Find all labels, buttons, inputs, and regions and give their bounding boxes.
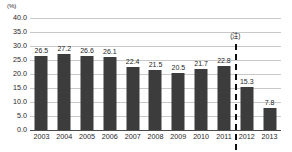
bars-layer: 26.527.226.626.122.421.520.521.722.815.3… xyxy=(30,18,281,130)
bar-value-label: 26.1 xyxy=(103,48,117,55)
bar-value-label: 15.3 xyxy=(240,78,254,85)
y-tick-label: 10.0 xyxy=(13,98,27,105)
bar-group: 21.5 xyxy=(144,18,167,130)
note-label: (注) xyxy=(230,33,240,39)
y-tick-label: 15.0 xyxy=(13,84,27,91)
bar-group: 26.6 xyxy=(76,18,99,130)
bar-group: 20.5 xyxy=(167,18,190,130)
bar-chart: (%) 40.035.030.025.020.015.010.05.00.0 2… xyxy=(0,0,292,152)
bar-value-label: 26.6 xyxy=(80,47,94,54)
x-tick-label: 2004 xyxy=(56,133,72,140)
bar xyxy=(195,69,208,130)
bar xyxy=(81,56,94,130)
y-tick-label: 0.0 xyxy=(17,126,27,133)
x-tick-label: 2013 xyxy=(262,133,278,140)
bar xyxy=(217,66,230,130)
bar-group: 26.5 xyxy=(30,18,53,130)
y-axis-unit-label: (%) xyxy=(7,3,16,9)
x-axis-line: 0.0 xyxy=(30,130,281,131)
plot-area: 40.035.030.025.020.015.010.05.00.0 26.52… xyxy=(30,18,281,130)
y-tick-label: 30.0 xyxy=(13,42,27,49)
x-tick-label: 2008 xyxy=(148,133,164,140)
bar xyxy=(263,108,276,130)
bar xyxy=(126,67,139,130)
bar-value-label: 20.5 xyxy=(172,64,186,71)
x-tick-label: 2011 xyxy=(216,133,231,140)
bar xyxy=(35,56,48,130)
bar-group: 26.1 xyxy=(98,18,121,130)
x-axis-labels: (年) 200320042005200620072008200920102011… xyxy=(30,133,281,147)
bar xyxy=(149,70,162,130)
bar-group: 27.2 xyxy=(53,18,76,130)
y-tick-label: 25.0 xyxy=(13,56,27,63)
bar-value-label: 21.7 xyxy=(194,60,208,67)
bar xyxy=(240,87,253,130)
bar-value-label: 27.2 xyxy=(57,45,71,52)
x-tick-label: 2006 xyxy=(102,133,118,140)
bar xyxy=(172,73,185,130)
x-tick-label: 2009 xyxy=(170,133,186,140)
bar-value-label: 21.5 xyxy=(149,61,163,68)
x-tick-label: 2012 xyxy=(239,133,255,140)
bar-value-label: 22.4 xyxy=(126,58,140,65)
y-tick-label: 40.0 xyxy=(13,14,27,21)
bar-value-label: 26.5 xyxy=(35,47,49,54)
y-tick-label: 5.0 xyxy=(17,112,27,119)
x-tick-label: 2003 xyxy=(33,133,49,140)
bar-value-label: 22.8 xyxy=(217,57,231,64)
bar-group: 7.8 xyxy=(258,18,281,130)
bar xyxy=(103,57,116,130)
bar-group: 22.4 xyxy=(121,18,144,130)
y-tick-label: 35.0 xyxy=(13,28,27,35)
x-tick-label: 2010 xyxy=(193,133,209,140)
y-tick-label: 20.0 xyxy=(13,70,27,77)
bar-value-label: 7.8 xyxy=(265,99,275,106)
x-tick-label: 2007 xyxy=(125,133,141,140)
bar xyxy=(58,54,71,130)
x-tick-label: 2005 xyxy=(79,133,95,140)
bar-group: 21.7 xyxy=(190,18,213,130)
